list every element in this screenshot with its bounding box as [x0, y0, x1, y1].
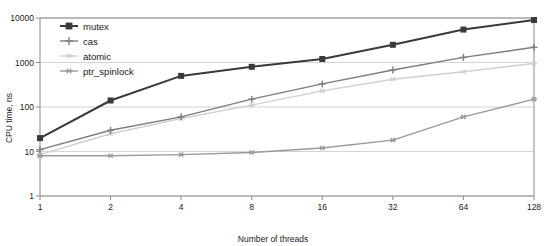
legend-label: atomic — [83, 51, 111, 62]
data-point-marker — [66, 23, 73, 30]
x-tick-label: 32 — [388, 202, 398, 212]
legend-label: ptr_spinlock — [83, 66, 134, 77]
legend-label: cas — [83, 36, 98, 47]
data-point-marker — [531, 17, 537, 23]
legend-label: mutex — [83, 21, 109, 32]
y-tick-label: 100 — [20, 102, 34, 112]
x-tick-label: 64 — [459, 202, 469, 212]
data-point-marker — [319, 56, 325, 62]
x-tick-label: 1 — [38, 202, 43, 212]
x-tick-label: 2 — [108, 202, 113, 212]
data-point-marker — [37, 135, 43, 141]
data-point-marker — [178, 73, 184, 79]
y-tick-label: 1 — [29, 191, 34, 201]
cpu-time-vs-threads-chart: 1248163264128 110100100010000 mutexcasat… — [0, 0, 546, 246]
y-tick-label: 10000 — [10, 13, 34, 23]
x-axis-title: Number of threads — [238, 234, 308, 244]
chart-canvas: 1248163264128 110100100010000 mutexcasat… — [0, 0, 546, 246]
y-axis-title: CPU time, ns — [4, 93, 14, 143]
x-tick-label: 8 — [249, 202, 254, 212]
y-tick-label: 10 — [25, 147, 35, 157]
data-point-marker — [390, 42, 396, 48]
data-point-marker — [108, 97, 114, 103]
data-point-marker — [460, 27, 466, 33]
y-tick-label: 1000 — [15, 58, 34, 68]
data-point-marker — [249, 64, 255, 70]
x-tick-label: 16 — [318, 202, 328, 212]
x-tick-label: 128 — [527, 202, 541, 212]
x-tick-label: 4 — [179, 202, 184, 212]
